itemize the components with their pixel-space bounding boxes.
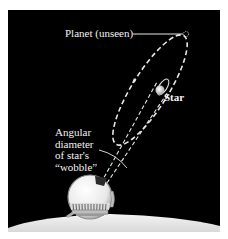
observatory-dome [66, 175, 115, 219]
angular-diameter-line-4: “wobble” [55, 162, 97, 174]
ground [8, 214, 220, 232]
planet-orbit-ellipse [101, 26, 199, 154]
sight-lines [101, 82, 168, 183]
angular-diameter-line-1: Angular [55, 127, 97, 139]
angular-diameter-line-3: of star's [55, 150, 97, 162]
angular-diameter-label: Angular diameter of star's “wobble” [55, 127, 97, 173]
planet-label: Planet (unseen) [65, 28, 133, 39]
star-label: Star [164, 92, 184, 103]
